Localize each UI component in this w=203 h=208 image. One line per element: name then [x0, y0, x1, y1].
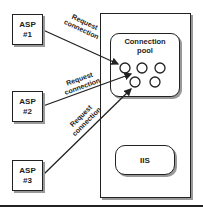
asp-2-number: #2 [23, 107, 32, 117]
asp-client-1: ASP #1 [12, 14, 43, 45]
asp-2-label: ASP [19, 97, 35, 107]
asp-client-3: ASP #3 [12, 160, 43, 191]
connection-circle [130, 77, 140, 87]
asp-1-label: ASP [19, 20, 35, 30]
asp-1-number: #1 [23, 30, 32, 40]
arrow-3 [43, 89, 131, 175]
connection-pool-diagram: Connection pool IIS ASP #1 ASP #2 ASP [0, 0, 203, 208]
bottom-rule [0, 205, 203, 207]
asp-client-2: ASP #2 [12, 91, 43, 122]
connection-circle [150, 77, 160, 87]
asp-3-label: ASP [19, 166, 35, 176]
asp-3-number: #3 [23, 176, 32, 186]
connection-circle [120, 63, 130, 73]
connection-circle [155, 63, 165, 73]
connection-circle [137, 63, 147, 73]
arrow-1 [43, 30, 118, 64]
